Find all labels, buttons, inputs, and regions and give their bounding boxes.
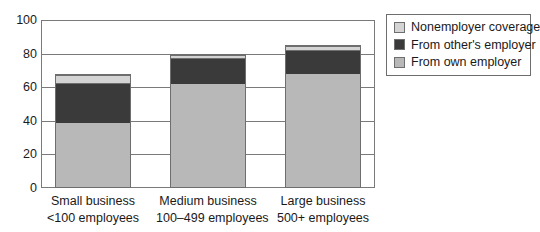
bar-segment-other-employer: [171, 58, 245, 84]
chart-legend: Nonemployer coverage From other's employ…: [386, 14, 531, 76]
x-axis-label-large-business: Large business 500+ employees: [271, 193, 375, 226]
bar-segment-own-employer: [56, 123, 130, 187]
x-label-line1: Small business: [51, 194, 135, 208]
bar-segment-own-employer: [286, 74, 360, 187]
x-axis-label-small-business: Small business <100 employees: [41, 193, 145, 226]
bar-segment-own-employer: [171, 84, 245, 187]
y-tick-label: 100: [3, 14, 37, 27]
y-axis: 100 80 60 40 20 0: [0, 20, 37, 188]
y-tick-label: 40: [3, 115, 37, 128]
bars-container: [41, 20, 375, 188]
y-tick-label: 60: [3, 81, 37, 94]
stacked-bar-large-business[interactable]: [285, 45, 361, 188]
bar-group-large-business: [285, 20, 361, 188]
x-axis-label-medium-business: Medium business 100–499 employees: [156, 193, 260, 226]
x-label-line2: 500+ employees: [271, 210, 375, 227]
x-label-line2: 100–499 employees: [156, 210, 260, 227]
stacked-bar-small-business[interactable]: [55, 74, 131, 188]
legend-label-own-employer: From own employer: [411, 56, 521, 69]
legend-item-own-employer[interactable]: From own employer: [394, 56, 522, 69]
legend-swatch-other-employer-icon: [394, 39, 405, 50]
bar-segment-other-employer: [56, 83, 130, 123]
legend-item-nonemployer[interactable]: Nonemployer coverage: [394, 21, 522, 34]
legend-swatch-own-employer-icon: [394, 57, 405, 68]
bar-group-medium-business: [170, 20, 246, 188]
stacked-bar-medium-business[interactable]: [170, 54, 246, 188]
x-label-line1: Large business: [281, 194, 366, 208]
y-tick-label: 80: [3, 47, 37, 60]
legend-swatch-nonemployer-icon: [394, 22, 405, 33]
y-tick-label: 20: [3, 148, 37, 161]
legend-label-other-employer: From other's employer: [411, 39, 536, 52]
bar-segment-other-employer: [286, 50, 360, 75]
legend-label-nonemployer: Nonemployer coverage: [411, 21, 540, 34]
bar-group-small-business: [55, 20, 131, 188]
x-label-line1: Medium business: [159, 194, 256, 208]
y-tick-label: 0: [3, 182, 37, 195]
legend-item-other-employer[interactable]: From other's employer: [394, 39, 522, 52]
bar-segment-nonemployer: [56, 75, 130, 83]
x-label-line2: <100 employees: [41, 210, 145, 227]
